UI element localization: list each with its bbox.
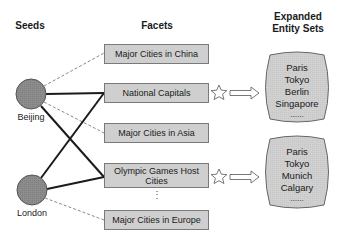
edge-beijing-china bbox=[44, 53, 104, 86]
expanded-entity-sets-header: Expanded Entity Sets bbox=[266, 11, 330, 35]
facet-olympic-host-cities[interactable]: Olympic Games Host Cities bbox=[104, 163, 209, 188]
diagram-edges bbox=[0, 0, 341, 243]
facet-label: Major Cities in Europe bbox=[112, 215, 201, 225]
expanded-header-line1: Expanded bbox=[266, 11, 330, 23]
edge-london-europe bbox=[45, 198, 104, 220]
entity-item: Singapore bbox=[266, 98, 328, 110]
seed-node-london bbox=[17, 175, 47, 205]
edge-london-olympics bbox=[47, 177, 104, 189]
expanded-header-line2: Entity Sets bbox=[266, 23, 330, 35]
entity-item: Paris bbox=[266, 146, 328, 158]
seeds-header: Seeds bbox=[10, 20, 50, 32]
entity-item: Berlin bbox=[266, 86, 328, 98]
entity-set-1: Paris Tokyo Berlin Singapore ...... bbox=[266, 62, 328, 120]
entity-more: ...... bbox=[266, 110, 328, 120]
arrow-right-icon bbox=[230, 87, 259, 99]
facet-national-capitals[interactable]: National Capitals bbox=[104, 83, 209, 103]
seed-label-beijing: Beijing bbox=[11, 112, 51, 122]
edge-beijing-capitals bbox=[46, 93, 104, 94]
facet-label: National Capitals bbox=[122, 88, 190, 98]
facet-major-cities-europe[interactable]: Major Cities in Europe bbox=[104, 210, 209, 230]
facets-header: Facets bbox=[133, 20, 181, 32]
facet-major-cities-asia[interactable]: Major Cities in Asia bbox=[104, 123, 209, 143]
entity-item: Calgary bbox=[266, 182, 328, 194]
star-icon bbox=[211, 169, 227, 184]
diagram-canvas: Seeds Facets Expanded Entity Sets Beijin… bbox=[0, 0, 341, 243]
seed-node-beijing bbox=[16, 79, 46, 109]
facet-label: Olympic Games Host Cities bbox=[113, 166, 200, 186]
entity-item: Tokyo bbox=[266, 74, 328, 86]
facet-label: Major Cities in China bbox=[115, 49, 198, 59]
star-icon bbox=[211, 85, 227, 100]
facet-label: Major Cities in Asia bbox=[118, 128, 195, 138]
facet-ellipsis: ⋮ bbox=[150, 190, 164, 200]
entity-more: ...... bbox=[266, 194, 328, 204]
entity-set-2: Paris Tokyo Munich Calgary ...... bbox=[266, 146, 328, 204]
seed-label-london: London bbox=[12, 208, 52, 218]
facet-major-cities-china[interactable]: Major Cities in China bbox=[104, 44, 209, 64]
entity-item: Paris bbox=[266, 62, 328, 74]
entity-item: Munich bbox=[266, 170, 328, 182]
entity-item: Tokyo bbox=[266, 158, 328, 170]
arrow-right-icon bbox=[230, 171, 259, 183]
